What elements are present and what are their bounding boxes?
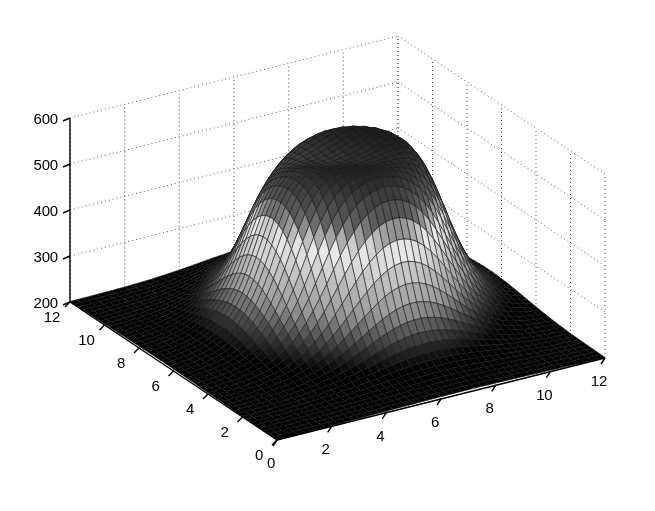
y-tick-label-10: 10 bbox=[78, 332, 94, 347]
x-tick-label-0: 0 bbox=[267, 455, 275, 470]
z-tick-label-300: 300 bbox=[34, 249, 58, 264]
x-tick-label-10: 10 bbox=[536, 386, 552, 401]
y-tick-label-2: 2 bbox=[220, 424, 228, 439]
y-tick-label-4: 4 bbox=[186, 401, 194, 416]
x-tick-label-2: 2 bbox=[322, 441, 330, 456]
y-tick-label-12: 12 bbox=[44, 309, 60, 324]
x-tick-label-4: 4 bbox=[376, 427, 384, 442]
x-tick-label-12: 12 bbox=[591, 373, 607, 388]
z-tick-label-600: 600 bbox=[34, 111, 58, 126]
surface-plot-canvas bbox=[0, 0, 655, 511]
y-tick-label-6: 6 bbox=[151, 378, 159, 393]
z-tick-label-400: 400 bbox=[34, 203, 58, 218]
z-tick-label-500: 500 bbox=[34, 157, 58, 172]
y-tick-label-0: 0 bbox=[255, 447, 263, 462]
x-tick-label-8: 8 bbox=[486, 400, 494, 415]
y-tick-label-8: 8 bbox=[117, 355, 125, 370]
x-tick-label-6: 6 bbox=[431, 414, 439, 429]
figure-3d-surface-plot: 600500400300200121086420024681012 bbox=[0, 0, 655, 511]
